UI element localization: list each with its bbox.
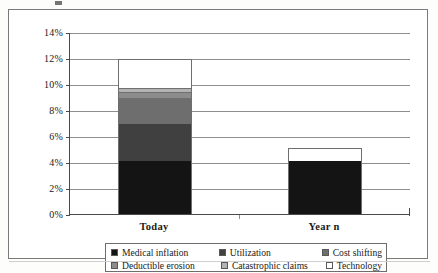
y-tick-label-6: 6% bbox=[49, 132, 63, 142]
legend-row-1: Medical inflation Utilization Cost shift… bbox=[111, 246, 382, 259]
figure-container: 0%2%4%6%8%10%12%14% Today Year n Medical… bbox=[0, 0, 438, 273]
bar-segment-technology[interactable] bbox=[118, 59, 192, 88]
legend-swatch-icon bbox=[322, 249, 329, 256]
bar-segment-technology[interactable] bbox=[288, 148, 362, 161]
legend-label: Deductible erosion bbox=[122, 261, 195, 271]
bar-segment-cost-shifting[interactable] bbox=[118, 98, 192, 123]
legend-item-deductible-erosion[interactable]: Deductible erosion bbox=[111, 261, 221, 271]
plot-area bbox=[69, 33, 409, 215]
bar-top-outline bbox=[118, 59, 192, 60]
legend-label: Technology bbox=[337, 261, 382, 271]
y-tick-14 bbox=[66, 33, 70, 34]
y-tick-6 bbox=[66, 137, 70, 138]
bar-segment-catastrophic-claims[interactable] bbox=[118, 88, 192, 92]
legend-swatch-icon bbox=[111, 249, 118, 256]
y-tick-8 bbox=[66, 111, 70, 112]
bar-segment-utilization[interactable] bbox=[118, 123, 192, 161]
y-tick-label-4: 4% bbox=[49, 158, 63, 168]
y-tick-4 bbox=[66, 163, 70, 164]
y-tick-10 bbox=[66, 85, 70, 86]
y-tick-label-10: 10% bbox=[44, 80, 63, 90]
legend-swatch-icon bbox=[111, 262, 118, 269]
category-label-year-n: Year n bbox=[239, 221, 409, 232]
bar-segment-deductible-erosion[interactable] bbox=[118, 92, 192, 99]
cropped-title-mark bbox=[55, 1, 62, 5]
legend-item-cost-shifting[interactable]: Cost shifting bbox=[322, 248, 382, 258]
y-axis-labels: 0%2%4%6%8%10%12%14% bbox=[23, 33, 65, 215]
legend-item-utilization[interactable]: Utilization bbox=[219, 248, 322, 258]
y-tick-label-14: 14% bbox=[44, 28, 63, 38]
y-tick-label-12: 12% bbox=[44, 54, 63, 64]
chart-legend: Medical inflation Utilization Cost shift… bbox=[105, 243, 387, 272]
bar-segment-medical-inflation[interactable] bbox=[118, 161, 192, 214]
bar-year-n[interactable] bbox=[288, 148, 362, 214]
legend-label: Cost shifting bbox=[333, 248, 382, 258]
legend-item-medical-inflation[interactable]: Medical inflation bbox=[111, 248, 219, 258]
category-label-today: Today bbox=[69, 221, 239, 232]
frame-shadow bbox=[9, 261, 430, 262]
y-tick-0 bbox=[66, 215, 70, 216]
x-axis-mid-tick bbox=[239, 215, 240, 219]
legend-label: Utilization bbox=[230, 248, 271, 258]
legend-swatch-icon bbox=[219, 249, 226, 256]
legend-item-catastrophic-claims[interactable]: Catastrophic claims bbox=[221, 261, 326, 271]
y-tick-label-0: 0% bbox=[49, 210, 63, 220]
bar-top-outline bbox=[288, 148, 362, 149]
legend-swatch-icon bbox=[221, 262, 228, 269]
legend-label: Medical inflation bbox=[122, 248, 188, 258]
legend-label: Catastrophic claims bbox=[232, 261, 308, 271]
legend-swatch-icon bbox=[326, 262, 333, 269]
chart-frame: 0%2%4%6%8%10%12%14% Today Year n Medical… bbox=[8, 9, 428, 259]
gridline-0 bbox=[70, 214, 410, 215]
y-tick-label-2: 2% bbox=[49, 184, 63, 194]
legend-item-technology[interactable]: Technology bbox=[326, 261, 382, 271]
gridline-14 bbox=[70, 33, 410, 34]
x-axis-end-cap bbox=[409, 208, 410, 216]
y-tick-12 bbox=[66, 59, 70, 60]
bar-segment-medical-inflation[interactable] bbox=[288, 161, 362, 214]
y-tick-label-8: 8% bbox=[49, 106, 63, 116]
y-tick-2 bbox=[66, 189, 70, 190]
bar-today[interactable] bbox=[118, 59, 192, 214]
